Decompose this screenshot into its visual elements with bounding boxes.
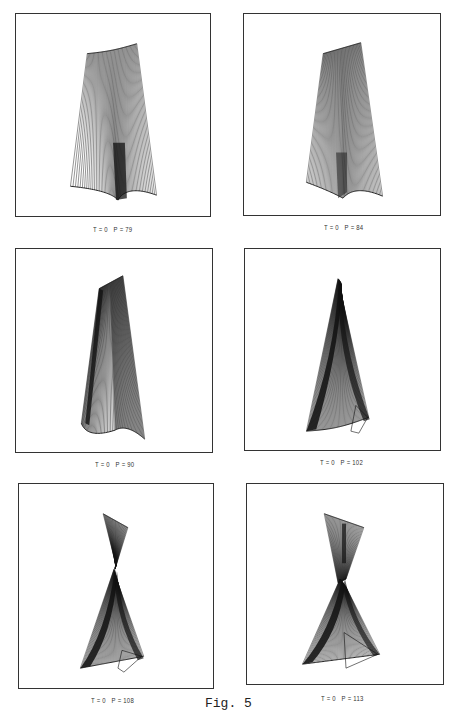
ruling-line [96,53,97,191]
figure-label: Fig. 5 [205,696,252,711]
surface-plot-p84 [244,14,440,215]
panel-caption-p102: T = 0 P = 102 [320,459,363,466]
ruling-line [134,45,150,193]
ruling-line [80,53,90,187]
panel-caption-p84: T = 0 P = 84 [324,224,363,231]
panel-caption-p90: T = 0 P = 90 [95,461,134,468]
panel-caption-p79: T = 0 P = 79 [93,226,132,233]
ruling-lines [103,514,128,569]
panel-caption-p113: T = 0 P = 113 [321,695,364,702]
surface-plot-p108 [19,484,213,688]
surface-plot-p90 [16,249,212,452]
ruling-line [345,526,359,580]
panel-caption-p108: T = 0 P = 108 [91,697,134,704]
plot-panel-p84 [243,13,441,216]
plot-panel-p79 [15,13,211,217]
dense-center-region [336,153,347,199]
plot-panel-p108 [18,483,214,689]
bottom-edge-curve [115,565,116,569]
ruling-line [308,53,324,182]
surface-plot-p79 [16,14,210,216]
ruling-line [70,54,87,187]
ruling-line [356,44,371,192]
surface-plot-p102 [245,249,440,450]
dense-upper-core [342,524,346,564]
plot-panel-p90 [15,248,213,453]
ruling-lines [70,44,156,200]
surface-plot-p113 [247,484,443,684]
plot-panel-p102 [244,248,441,451]
ruling-lines [81,276,144,439]
plot-panel-p113 [246,483,444,685]
